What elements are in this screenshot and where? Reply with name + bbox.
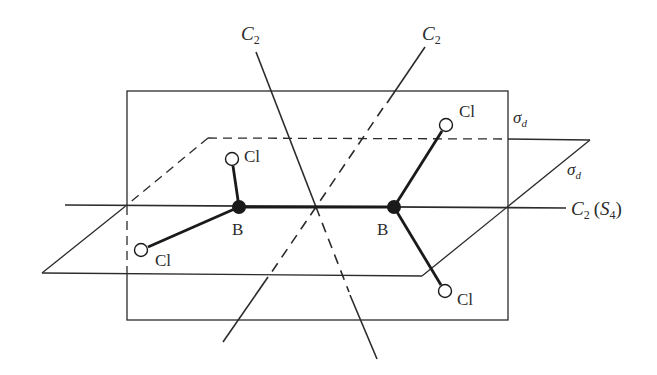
label-c2-left: C2	[241, 23, 260, 47]
label-cl3: Cl	[459, 102, 475, 121]
label-b1: B	[232, 220, 243, 239]
chlorine-atom-3	[440, 119, 453, 132]
chlorine-atom-1	[226, 153, 239, 166]
boron-atom-1	[232, 200, 246, 214]
label-sigma-d-horizontal: σd	[567, 160, 581, 181]
label-cl4: Cl	[457, 290, 473, 309]
label-cl2: Cl	[155, 251, 171, 270]
boron-atom-2	[387, 200, 401, 214]
b2cl4-symmetry-diagram: B B Cl Cl Cl Cl C2 C2 C2(S4) σd σd	[0, 0, 657, 375]
chlorine-atom-4	[439, 285, 452, 298]
label-c2-s4: C2(S4)	[571, 198, 622, 222]
label-sigma-d-vertical: σd	[513, 108, 527, 129]
label-c2-right: C2	[422, 23, 441, 47]
label-b2: B	[377, 220, 388, 239]
chlorine-atom-2	[135, 244, 148, 257]
label-cl1: Cl	[244, 147, 260, 166]
